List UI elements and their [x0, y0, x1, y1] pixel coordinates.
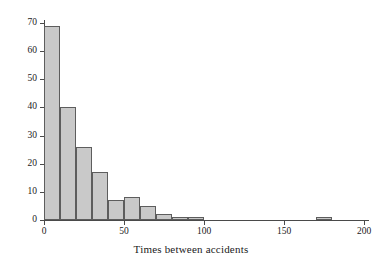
histogram-figure: 010203040506070 050100150200 Times betwe… [0, 0, 382, 270]
histogram-bar [92, 172, 108, 220]
plot-area: 010203040506070 050100150200 [0, 0, 382, 270]
histogram-bar [60, 107, 76, 220]
histogram-bar [44, 26, 60, 220]
x-tick-label: 100 [189, 227, 219, 237]
x-tick-label: 50 [109, 227, 139, 237]
y-tick-label: 0 [13, 215, 37, 225]
x-axis-label: Times between accidents [0, 243, 382, 255]
x-tick [364, 221, 365, 225]
histogram-bar [316, 217, 332, 220]
histogram-bar [76, 147, 92, 220]
y-tick-label: 20 [13, 159, 37, 169]
x-tick [204, 221, 205, 225]
x-axis-line [44, 220, 369, 221]
histogram-bar [124, 197, 140, 220]
y-tick-label: 40 [13, 102, 37, 112]
x-tick [124, 221, 125, 225]
x-tick-label: 200 [349, 227, 379, 237]
histogram-bar [156, 214, 172, 220]
x-tick-label: 150 [269, 227, 299, 237]
histogram-bar [172, 217, 188, 220]
histogram-bar [188, 217, 204, 220]
histogram-bar [108, 200, 124, 220]
y-tick-label: 70 [13, 18, 37, 28]
x-tick [44, 221, 45, 225]
y-tick-label: 30 [13, 131, 37, 141]
x-tick-label: 0 [29, 227, 59, 237]
x-tick [284, 221, 285, 225]
histogram-bar [140, 206, 156, 220]
y-tick [40, 23, 44, 24]
y-tick-label: 60 [13, 46, 37, 56]
y-tick-label: 10 [13, 187, 37, 197]
y-tick-label: 50 [13, 74, 37, 84]
